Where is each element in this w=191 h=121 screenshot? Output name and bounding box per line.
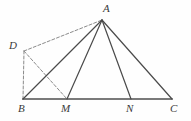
vertex-label-N: N: [126, 103, 133, 114]
segment-AN: [102, 20, 131, 99]
segment-AB: [23, 20, 102, 99]
geometry-figure: ABMNCD: [0, 0, 191, 121]
solid-segments-layer: [23, 20, 172, 99]
vertex-label-B: B: [18, 103, 25, 114]
vertex-label-D: D: [9, 40, 17, 51]
vertex-label-C: C: [170, 103, 177, 114]
vertex-label-M: M: [61, 103, 70, 114]
vertex-label-A: A: [103, 3, 110, 14]
segment-AC: [102, 20, 172, 99]
figure-canvas: [0, 0, 191, 121]
segment-DB: [23, 51, 24, 99]
